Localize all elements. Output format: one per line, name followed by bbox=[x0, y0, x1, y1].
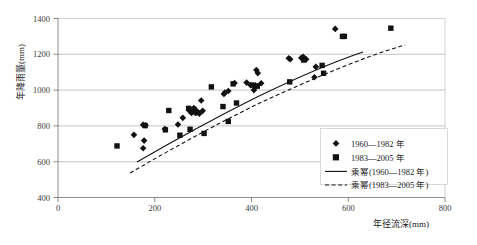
data-point bbox=[234, 100, 239, 105]
data-point bbox=[187, 127, 192, 132]
data-point bbox=[201, 131, 206, 136]
y-axis-title: 年降雨量(mm) bbox=[15, 44, 26, 100]
data-point bbox=[220, 104, 225, 109]
data-point bbox=[163, 127, 168, 132]
x-tick-label-800: 800 bbox=[439, 203, 452, 213]
data-point bbox=[388, 25, 393, 30]
data-point bbox=[321, 71, 326, 76]
x-axis-title: 年径流深(mm) bbox=[373, 218, 429, 229]
data-point bbox=[198, 97, 205, 104]
series-1960-1982-points bbox=[131, 26, 339, 152]
data-point bbox=[319, 63, 324, 68]
x-tick-label-0: 0 bbox=[56, 203, 60, 213]
y-tick-labels: 1400 1200 1000 800 600 400 bbox=[33, 14, 50, 203]
x-tick-labels: 0 200 400 600 800 bbox=[56, 203, 452, 213]
y-tick-label-1400: 1400 bbox=[33, 14, 50, 24]
data-point bbox=[142, 123, 147, 128]
legend-label-1960-1982: 1960—1982 年 bbox=[351, 139, 405, 149]
data-point bbox=[140, 145, 147, 152]
data-point bbox=[301, 57, 306, 62]
data-point bbox=[209, 84, 214, 89]
data-point bbox=[186, 106, 191, 111]
data-point bbox=[226, 119, 231, 124]
data-point bbox=[114, 143, 119, 148]
y-tick-label-1000: 1000 bbox=[33, 85, 50, 95]
x-tick-label-400: 400 bbox=[245, 203, 258, 213]
data-point bbox=[342, 34, 347, 39]
data-point bbox=[255, 83, 260, 88]
legend-label-power-1983-2005: 乘幂(1983—2005 年) bbox=[351, 180, 428, 190]
y-tick-label-400: 400 bbox=[37, 193, 50, 203]
data-point bbox=[287, 79, 292, 84]
data-point bbox=[332, 26, 339, 33]
legend-label-1983-2005: 1983—2005 年 bbox=[351, 153, 405, 163]
legend-square-icon bbox=[333, 154, 339, 160]
scatter-chart: 1400 1200 1000 800 600 400 0 200 400 600… bbox=[0, 0, 477, 245]
y-tick-label-1200: 1200 bbox=[33, 49, 50, 59]
data-point bbox=[177, 133, 182, 138]
chart-legend: 1960—1982 年 1983—2005 年 乘幂(1960—1982 年) … bbox=[321, 129, 448, 191]
data-point bbox=[194, 110, 199, 115]
x-tick-label-200: 200 bbox=[148, 203, 161, 213]
data-point bbox=[180, 115, 187, 122]
data-point bbox=[131, 132, 138, 139]
y-tick-label-600: 600 bbox=[37, 157, 50, 167]
y-tick-label-800: 800 bbox=[37, 121, 50, 131]
x-tick-label-600: 600 bbox=[342, 203, 355, 213]
data-point bbox=[141, 137, 148, 144]
legend-label-power-1960-1982: 乘幂(1960—1982 年) bbox=[351, 167, 428, 177]
data-point bbox=[166, 108, 171, 113]
data-point bbox=[175, 121, 182, 128]
data-point bbox=[230, 81, 235, 86]
